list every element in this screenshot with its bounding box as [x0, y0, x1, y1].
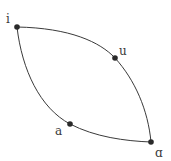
node-i: [14, 24, 20, 30]
node-alpha: [148, 139, 154, 145]
label-a: a: [55, 124, 62, 138]
node-u: [112, 55, 118, 61]
lower-arc-edge: [17, 27, 151, 142]
node-a: [67, 121, 73, 127]
upper-arc-edge: [17, 27, 151, 142]
lens-diagram: i u a ɑ: [0, 0, 171, 161]
label-u: u: [119, 44, 127, 58]
label-alpha: ɑ: [155, 146, 163, 160]
label-i: i: [6, 12, 10, 26]
